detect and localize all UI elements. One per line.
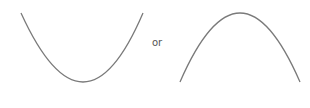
diagram-canvas: or xyxy=(0,0,310,108)
downward-parabola-curve xyxy=(180,13,300,82)
or-label: or xyxy=(152,37,162,48)
upward-parabola-curve xyxy=(21,13,143,82)
parabolas-figure xyxy=(0,0,310,108)
